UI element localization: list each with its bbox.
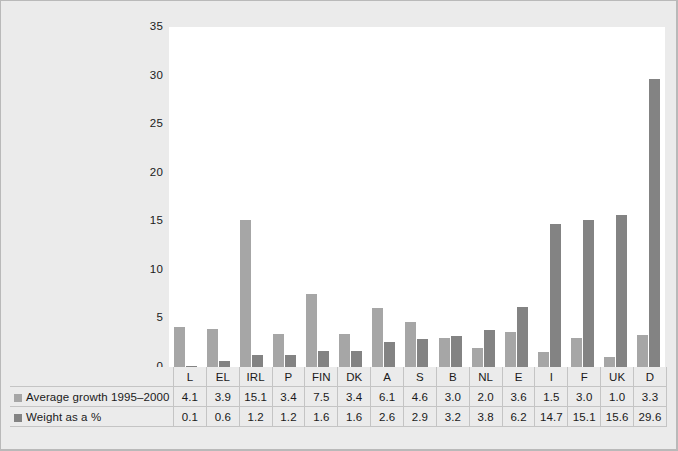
table-corner-cell [10, 367, 174, 387]
category-group [599, 27, 632, 367]
bar-average-growth [207, 329, 218, 367]
y-axis-tick-label: 20 [119, 167, 163, 179]
y-axis-tick-label: 10 [119, 264, 163, 276]
category-group [169, 27, 202, 367]
bar-weight-percent [318, 351, 329, 367]
bar-average-growth [538, 352, 549, 367]
bar-average-growth [174, 327, 185, 367]
bar-average-growth [273, 334, 284, 367]
category-group [334, 27, 367, 367]
category-header-cell: E [502, 367, 535, 387]
y-axis-tick-label: 15 [119, 216, 163, 228]
data-cell: 4.6 [404, 387, 437, 407]
data-cell: 14.7 [535, 407, 568, 427]
y-axis-tick-label: 35 [119, 21, 163, 33]
bar-average-growth [505, 332, 516, 367]
data-cell: 2.6 [371, 407, 404, 427]
data-cell: 3.0 [436, 387, 469, 407]
data-cell: 0.6 [206, 407, 239, 427]
bar-average-growth [439, 338, 450, 367]
legend-row-label: Weight as a % [10, 407, 174, 427]
bar-weight-percent [451, 336, 462, 367]
category-group [367, 27, 400, 367]
bars-layer [169, 27, 665, 367]
bar-average-growth [405, 322, 416, 367]
category-group [268, 27, 301, 367]
data-cell: 6.2 [502, 407, 535, 427]
legend-series-name: Average growth 1995–2000 [26, 391, 170, 403]
category-group [533, 27, 566, 367]
category-group [434, 27, 467, 367]
category-header-cell: NL [469, 367, 502, 387]
category-header-cell: F [568, 367, 601, 387]
data-cell: 15.1 [568, 407, 601, 427]
data-cell: 3.6 [502, 387, 535, 407]
category-header-cell: D [634, 367, 667, 387]
bar-weight-percent [550, 224, 561, 367]
bar-average-growth [240, 220, 251, 367]
data-cell: 3.9 [206, 387, 239, 407]
category-group [566, 27, 599, 367]
bar-average-growth [472, 348, 483, 367]
legend-swatch-icon [14, 394, 22, 402]
data-cell: 4.1 [174, 387, 207, 407]
bar-average-growth [372, 308, 383, 367]
category-header-cell: FIN [305, 367, 338, 387]
data-cell: 3.0 [568, 387, 601, 407]
bar-weight-percent [384, 342, 395, 367]
data-cell: 1.6 [338, 407, 371, 427]
data-cell: 3.2 [436, 407, 469, 427]
category-group [400, 27, 433, 367]
table-row: Weight as a %0.10.61.21.21.61.62.62.93.2… [10, 407, 667, 427]
data-cell: 1.6 [305, 407, 338, 427]
category-header-cell: EL [206, 367, 239, 387]
table-row: Average growth 1995–20004.13.915.13.47.5… [10, 387, 667, 407]
category-header-cell: UK [601, 367, 634, 387]
bar-weight-percent [484, 330, 495, 367]
data-cell: 15.1 [239, 387, 272, 407]
category-header-cell: DK [338, 367, 371, 387]
bar-weight-percent [252, 355, 263, 367]
category-group [632, 27, 665, 367]
data-cell: 1.5 [535, 387, 568, 407]
category-header-cell: A [371, 367, 404, 387]
category-header-cell: P [272, 367, 305, 387]
data-cell: 7.5 [305, 387, 338, 407]
bar-weight-percent [417, 339, 428, 367]
bar-average-growth [339, 334, 350, 367]
category-header-cell: I [535, 367, 568, 387]
y-axis-tick-label: 25 [119, 118, 163, 130]
category-header-cell: L [174, 367, 207, 387]
category-header-cell: B [436, 367, 469, 387]
category-group [235, 27, 268, 367]
plot-area [169, 27, 665, 367]
data-cell: 2.0 [469, 387, 502, 407]
legend-swatch-icon [14, 414, 22, 422]
data-cell: 15.6 [601, 407, 634, 427]
data-table-body: LELIRLPFINDKASBNLEIFUKDAverage growth 19… [10, 367, 667, 427]
legend-row-label: Average growth 1995–2000 [10, 387, 174, 407]
y-axis: 05101520253035 [119, 27, 163, 367]
data-cell: 1.2 [272, 407, 305, 427]
data-cell: 2.9 [404, 407, 437, 427]
bar-weight-percent [583, 220, 594, 367]
bar-average-growth [306, 294, 317, 367]
y-axis-tick-label: 5 [119, 313, 163, 325]
data-cell: 3.3 [634, 387, 667, 407]
bar-weight-percent [517, 307, 528, 367]
data-cell: 3.4 [338, 387, 371, 407]
data-cell: 1.0 [601, 387, 634, 407]
bar-average-growth [604, 357, 615, 367]
bar-weight-percent [351, 351, 362, 367]
data-cell: 0.1 [174, 407, 207, 427]
data-cell: 1.2 [239, 407, 272, 427]
category-group [467, 27, 500, 367]
category-group [301, 27, 334, 367]
data-cell: 29.6 [634, 407, 667, 427]
chart-figure: 05101520253035 LELIRLPFINDKASBNLEIFUKDAv… [0, 0, 678, 451]
data-cell: 3.4 [272, 387, 305, 407]
bar-weight-percent [616, 215, 627, 367]
table-header-row: LELIRLPFINDKASBNLEIFUKD [10, 367, 667, 387]
y-axis-tick-label: 30 [119, 70, 163, 82]
bar-average-growth [637, 335, 648, 367]
